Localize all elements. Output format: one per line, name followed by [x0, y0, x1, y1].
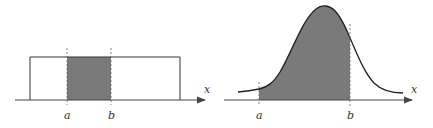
bound-a-label: a	[64, 109, 71, 122]
shaded-area	[259, 6, 350, 100]
normal-distribution-figure: x a b	[224, 6, 418, 122]
shaded-area	[67, 57, 111, 100]
bound-b-label: b	[347, 109, 354, 122]
uniform-distribution-figure: x a b	[15, 48, 211, 122]
probability-diagrams: x a b x a b	[0, 0, 433, 128]
bound-a-label: a	[256, 109, 263, 122]
x-axis-label: x	[204, 83, 211, 96]
bound-b-label: b	[108, 109, 115, 122]
x-axis-label: x	[411, 83, 418, 96]
